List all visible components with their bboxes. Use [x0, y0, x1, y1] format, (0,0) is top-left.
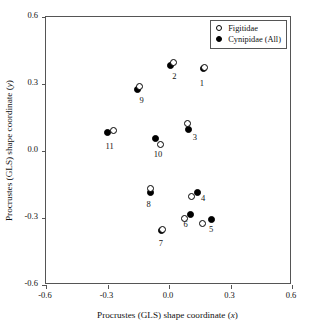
y-tick	[42, 151, 46, 152]
data-point	[170, 59, 177, 66]
data-point	[110, 127, 117, 134]
data-point	[136, 83, 143, 90]
point-label: 3	[193, 132, 197, 142]
legend-item: Figitidae	[215, 23, 281, 34]
point-label: 1	[200, 78, 204, 88]
y-tick-label: 0.6	[6, 10, 38, 20]
legend-label: Figitidae	[228, 23, 258, 34]
data-point	[187, 211, 194, 218]
plot-area: 1234567891011 FigitidaeCynipidae (All)	[45, 16, 291, 284]
filled-circle-icon	[215, 35, 224, 44]
y-tick	[42, 218, 46, 219]
y-tick	[42, 17, 46, 18]
data-point	[184, 120, 191, 127]
y-tick	[42, 84, 46, 85]
x-tick	[108, 285, 109, 289]
x-tick-label: -0.3	[87, 290, 127, 300]
x-tick	[46, 285, 47, 289]
x-axis-title-text: Procrustes (GLS) shape coordinate (x)	[97, 310, 238, 320]
point-label: 2	[172, 71, 176, 81]
x-tick-label: 0.3	[210, 290, 250, 300]
point-label: 4	[201, 193, 205, 203]
x-tick	[169, 285, 170, 289]
point-label: 5	[209, 224, 213, 234]
data-point	[159, 226, 166, 233]
legend: FigitidaeCynipidae (All)	[210, 20, 287, 49]
data-point	[181, 215, 188, 222]
data-point	[208, 216, 215, 223]
y-tick-label: 0.0	[6, 144, 38, 154]
x-tick-label: 0.6	[271, 290, 311, 300]
data-point	[194, 189, 201, 196]
data-point	[199, 220, 206, 227]
data-point	[201, 64, 208, 71]
data-point	[188, 193, 195, 200]
point-label: 9	[139, 95, 143, 105]
point-label: 11	[106, 141, 114, 151]
point-label: 10	[154, 149, 163, 159]
y-tick-label: -0.3	[6, 211, 38, 221]
x-tick-label: 0.0	[148, 290, 188, 300]
point-label: 8	[147, 199, 151, 209]
legend-label: Cynipidae (All)	[228, 34, 281, 45]
data-point	[157, 141, 164, 148]
scatter-plot-figure: Procrustes (GLS) shape coordinate (y) 12…	[0, 0, 335, 336]
x-tick-label: -0.6	[25, 290, 65, 300]
y-tick-label: 0.3	[6, 77, 38, 87]
x-axis-title: Procrustes (GLS) shape coordinate (x)	[0, 310, 335, 320]
open-circle-icon	[215, 24, 224, 33]
point-label: 7	[159, 238, 163, 248]
y-tick-label: -0.6	[6, 278, 38, 288]
x-tick	[292, 285, 293, 289]
data-point	[185, 126, 192, 133]
legend-item: Cynipidae (All)	[215, 34, 281, 45]
x-tick	[231, 285, 232, 289]
